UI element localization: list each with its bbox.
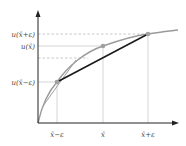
- point-xbar: [101, 44, 106, 49]
- utility-curve: [38, 30, 178, 123]
- label-xbar: x̄: [101, 131, 105, 139]
- utility-diagram: u(x̄+ε) u(x̄) u(x̄−ε) x̄−ε x̄ x̄+ε: [0, 0, 186, 146]
- label-xbar-plus-eps: x̄+ε: [141, 131, 155, 139]
- point-xbar-plus-eps: [146, 32, 151, 37]
- label-u-xbar-plus-eps: u(x̄+ε): [11, 31, 35, 39]
- tangent-line: [43, 60, 76, 106]
- x-axis-arrow-icon: [172, 121, 179, 126]
- label-u-xbar: u(x̄): [21, 43, 35, 51]
- point-xbar-minus-eps: [55, 80, 60, 85]
- label-xbar-minus-eps: x̄−ε: [50, 131, 64, 139]
- y-axis-arrow-icon: [36, 10, 41, 17]
- label-u-xbar-minus-eps: u(x̄−ε): [11, 79, 35, 87]
